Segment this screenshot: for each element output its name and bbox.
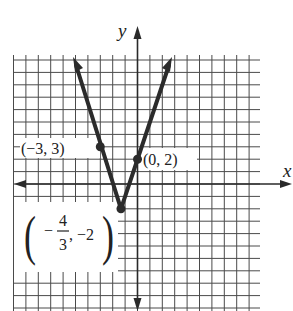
vertex-numerator: 4	[59, 212, 67, 229]
vertex-denominator: 3	[59, 236, 67, 253]
chart: xy (−3, 3)(0, 2)()−43, −2	[0, 0, 293, 311]
data-point-2	[116, 204, 125, 213]
vertex-close-paren: )	[102, 204, 114, 266]
y-axis-label: y	[116, 20, 127, 41]
y-axis-down-arrow-icon	[134, 298, 142, 311]
vertex-open-paren: (	[24, 204, 36, 266]
data-point-1	[133, 155, 142, 164]
grid	[13, 55, 260, 311]
x-axis-label: x	[282, 160, 292, 181]
y-axis-up-arrow-icon	[134, 26, 142, 39]
data-point-0	[96, 142, 105, 151]
x-axis-right-arrow-icon	[280, 180, 292, 188]
x-axis-left-arrow-icon	[14, 180, 26, 188]
label-point-neg3-3: (−3, 3)	[21, 140, 65, 158]
right-arrowhead-icon	[162, 57, 172, 72]
vertex-minus-sign: −	[44, 222, 53, 239]
label-point-0-2: (0, 2)	[143, 151, 178, 169]
left-arrowhead-icon	[73, 57, 83, 72]
vertex-y-value: , −2	[69, 226, 94, 243]
graph-left-branch	[76, 65, 121, 209]
graph-right-branch	[121, 65, 169, 209]
